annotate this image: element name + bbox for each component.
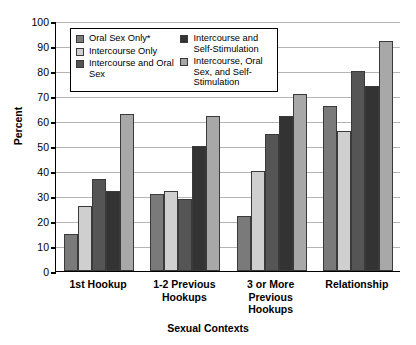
bar: [365, 86, 379, 271]
legend-swatch-icon: [180, 35, 188, 43]
bar: [192, 146, 206, 271]
y-tick-label: 50: [19, 141, 49, 153]
bar: [106, 191, 120, 271]
bar: [150, 194, 164, 272]
y-tick-label: 60: [19, 116, 49, 128]
legend-label: Intercourse and Self-Stimulation: [193, 33, 273, 54]
x-axis-group-label: 1-2 Previous Hookups: [141, 278, 227, 303]
legend-swatch-icon: [76, 48, 84, 56]
y-tick-label: 30: [19, 191, 49, 203]
legend-item: Intercourse and Self-Stimulation: [180, 33, 273, 54]
bar-group: [315, 22, 401, 271]
x-axis-group-label: Relationship: [314, 278, 400, 291]
y-tick-label: 10: [19, 241, 49, 253]
bar: [164, 191, 178, 271]
legend-item: Intercourse, Oral Sex, and Self-Stimulat…: [180, 56, 273, 88]
legend-label: Intercourse Only: [89, 46, 157, 57]
bar: [206, 116, 220, 271]
legend-label: Intercourse, Oral Sex, and Self-Stimulat…: [193, 56, 273, 88]
x-axis-title: Sexual Contexts: [0, 322, 416, 334]
bar: [379, 41, 393, 271]
y-tick-label: 0: [19, 266, 49, 278]
legend-label: Oral Sex Only*: [89, 33, 150, 44]
y-tick-label: 100: [19, 16, 49, 28]
y-tick-mark: [51, 272, 56, 274]
legend-item: Intercourse and Oral Sex: [76, 58, 174, 79]
x-axis-group-label: 3 or More Previous Hookups: [228, 278, 314, 316]
x-axis-group-label: 1st Hookup: [55, 278, 141, 291]
y-tick-label: 80: [19, 66, 49, 78]
bar: [323, 106, 337, 271]
bar: [92, 179, 106, 272]
legend-column-right: Intercourse and Self-StimulationIntercou…: [180, 33, 273, 88]
bar: [251, 171, 265, 271]
bar: [237, 216, 251, 271]
legend-item: Intercourse Only: [76, 46, 174, 57]
chart-legend: Oral Sex Only*Intercourse OnlyIntercours…: [70, 28, 278, 92]
bar: [178, 199, 192, 272]
y-tick-label: 70: [19, 91, 49, 103]
legend-label: Intercourse and Oral Sex: [89, 58, 174, 79]
bar: [337, 131, 351, 271]
bar: [279, 116, 293, 271]
legend-column-left: Oral Sex Only*Intercourse OnlyIntercours…: [76, 33, 174, 88]
bar: [78, 206, 92, 271]
bar: [64, 234, 78, 272]
bar: [293, 94, 307, 272]
legend-swatch-icon: [76, 35, 84, 43]
y-tick-label: 20: [19, 216, 49, 228]
bar-chart: Percent 0102030405060708090100 1st Hooku…: [0, 0, 416, 345]
y-tick-label: 40: [19, 166, 49, 178]
bar: [265, 134, 279, 272]
legend-item: Oral Sex Only*: [76, 33, 174, 44]
legend-swatch-icon: [180, 58, 188, 66]
bar: [120, 114, 134, 272]
bar: [351, 71, 365, 271]
legend-swatch-icon: [76, 60, 84, 68]
y-tick-label: 90: [19, 41, 49, 53]
